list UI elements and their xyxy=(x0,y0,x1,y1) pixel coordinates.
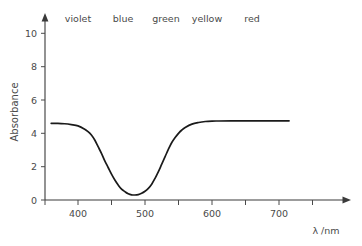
band-label-blue: blue xyxy=(113,13,134,24)
y-tick-label-0: 0 xyxy=(31,195,37,206)
y-tick-label-4: 4 xyxy=(31,128,37,139)
y-tick-label-2: 2 xyxy=(31,161,37,172)
x-tick-label-500: 500 xyxy=(136,208,154,219)
y-tick-label-6: 6 xyxy=(31,95,37,106)
spectral-band-labels: violet blue green yellow red xyxy=(65,13,260,24)
x-axis-arrow-icon xyxy=(343,197,352,204)
y-axis-arrow-icon xyxy=(42,13,49,22)
x-tick-label-600: 600 xyxy=(203,208,221,219)
x-axis: 400 500 600 700 λ /nm xyxy=(45,197,351,236)
x-axis-title: λ /nm xyxy=(312,225,339,236)
chart-canvas: 10 8 6 4 2 0 Absorbance 400 xyxy=(0,0,362,246)
band-label-green: green xyxy=(152,13,179,24)
y-tick-label-8: 8 xyxy=(31,61,37,72)
x-tick-label-700: 700 xyxy=(270,208,288,219)
y-tick-label-10: 10 xyxy=(25,28,37,39)
band-label-red: red xyxy=(244,13,260,24)
y-axis: 10 8 6 4 2 0 Absorbance xyxy=(9,13,48,206)
absorbance-spectrum-chart: 10 8 6 4 2 0 Absorbance 400 xyxy=(0,0,362,246)
band-label-violet: violet xyxy=(65,13,92,24)
band-label-yellow: yellow xyxy=(192,13,223,24)
y-axis-title: Absorbance xyxy=(9,82,20,141)
x-tick-label-400: 400 xyxy=(69,208,87,219)
absorbance-curve xyxy=(51,121,289,195)
